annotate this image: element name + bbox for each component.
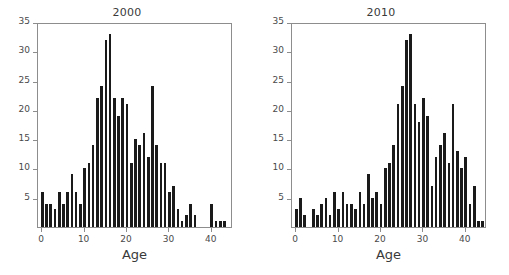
y-tick-mark	[287, 23, 291, 24]
histogram-bar	[392, 145, 395, 227]
histogram-bar	[333, 192, 336, 227]
x-tick-mark	[84, 228, 85, 232]
histogram-bar	[215, 221, 218, 227]
histogram-bar	[223, 221, 226, 227]
histogram-bar	[117, 116, 120, 227]
x-tick-label: 10	[326, 234, 350, 244]
histogram-bar	[164, 163, 167, 227]
histogram-bar	[469, 204, 472, 227]
histogram-bar	[435, 157, 438, 227]
histogram-bar	[367, 174, 370, 227]
x-tick-label: 10	[72, 234, 96, 244]
histogram-bar	[363, 204, 366, 227]
y-tick-mark	[33, 111, 37, 112]
histogram-bar	[121, 98, 124, 227]
histogram-bar	[41, 192, 44, 227]
histogram-bar	[405, 40, 408, 227]
panel-2010: 2010 5101520253035010203040 Age	[254, 0, 508, 275]
histogram-bar	[325, 198, 328, 227]
x-tick-label: 0	[283, 234, 307, 244]
histogram-bar	[388, 163, 391, 227]
histogram-bar	[477, 221, 480, 227]
histogram-bar	[168, 192, 171, 227]
histogram-bar	[316, 215, 319, 227]
histogram-bar	[371, 198, 374, 227]
bars-2010	[292, 24, 485, 227]
y-axis-tick: 30	[0, 52, 37, 53]
panel-title-2010: 2010	[254, 6, 508, 19]
x-tick-label: 40	[199, 234, 223, 244]
histogram-bar	[189, 204, 192, 227]
y-tick-label: 35	[273, 16, 284, 26]
x-tick-label: 30	[410, 234, 434, 244]
histogram-bar	[172, 186, 175, 227]
x-tick-mark	[295, 228, 296, 232]
y-tick-mark	[33, 23, 37, 24]
histogram-bar	[181, 221, 184, 227]
histogram-bar	[303, 215, 306, 227]
histogram-bar	[113, 98, 116, 227]
x-tick-label: 20	[368, 234, 392, 244]
y-tick-label: 10	[19, 162, 30, 172]
histogram-bar	[329, 215, 332, 227]
x-tick-label: 40	[453, 234, 477, 244]
y-tick-label: 25	[19, 75, 30, 85]
histogram-bar	[79, 204, 82, 227]
y-tick-label: 25	[273, 75, 284, 85]
y-tick-mark	[33, 52, 37, 53]
histogram-bar	[342, 192, 345, 227]
y-axis-tick: 15	[254, 140, 291, 141]
histogram-bar	[295, 209, 298, 227]
histogram-bar	[481, 221, 484, 227]
histogram-bar	[380, 204, 383, 227]
histogram-bar	[414, 104, 417, 227]
y-tick-mark	[33, 199, 37, 200]
histogram-bar	[45, 204, 48, 227]
histogram-bar	[155, 145, 158, 227]
histogram-bar	[83, 168, 86, 227]
y-axis-tick: 35	[0, 23, 37, 24]
x-tick-mark	[380, 228, 381, 232]
plot-area-2000	[37, 23, 232, 228]
y-tick-label: 35	[19, 16, 30, 26]
histogram-bar	[71, 174, 74, 227]
histogram-bar	[384, 168, 387, 227]
x-tick-label: 20	[114, 234, 138, 244]
histogram-bar	[185, 215, 188, 227]
y-tick-mark	[287, 52, 291, 53]
histogram-bar	[439, 145, 442, 227]
y-tick-label: 30	[19, 45, 30, 55]
histogram-bar	[431, 186, 434, 227]
histogram-bar	[464, 157, 467, 227]
histogram-bar	[401, 86, 404, 227]
y-axis-tick: 10	[0, 169, 37, 170]
histogram-figure: 2000 5101520253035010203040 Age 2010 510…	[0, 0, 509, 275]
y-tick-mark	[33, 169, 37, 170]
y-tick-mark	[287, 169, 291, 170]
histogram-bar	[354, 209, 357, 227]
y-tick-mark	[33, 82, 37, 83]
histogram-bar	[350, 204, 353, 227]
y-axis-tick: 25	[254, 82, 291, 83]
histogram-bar	[359, 192, 362, 227]
histogram-bar	[54, 209, 57, 227]
histogram-bar	[337, 209, 340, 227]
histogram-bar	[109, 34, 112, 227]
histogram-bar	[375, 192, 378, 227]
y-axis-tick: 25	[0, 82, 37, 83]
x-tick-mark	[126, 228, 127, 232]
histogram-bar	[62, 204, 65, 227]
histogram-bar	[448, 163, 451, 227]
histogram-bar	[151, 86, 154, 227]
histogram-bar	[418, 122, 421, 227]
bars-2000	[38, 24, 231, 227]
y-axis-tick: 10	[254, 169, 291, 170]
y-axis-tick: 20	[254, 111, 291, 112]
histogram-bar	[397, 104, 400, 227]
histogram-bar	[160, 163, 163, 227]
histogram-bar	[312, 209, 315, 227]
histogram-bar	[49, 204, 52, 227]
y-tick-mark	[33, 140, 37, 141]
histogram-bar	[75, 192, 78, 227]
xlabel-2010: Age	[291, 247, 486, 262]
